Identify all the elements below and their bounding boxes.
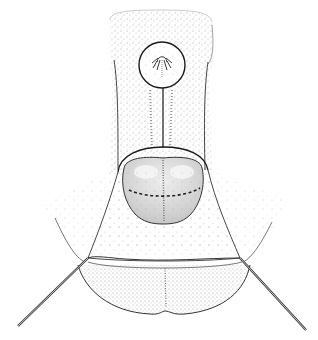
left-retractor xyxy=(18,258,88,326)
inset-circle xyxy=(139,42,185,88)
anatomical-illustration: anatomical-stipple-illustration xyxy=(0,0,318,340)
right-retractor xyxy=(240,258,306,330)
upper-tube xyxy=(110,10,214,175)
lower-lobes xyxy=(78,265,250,314)
